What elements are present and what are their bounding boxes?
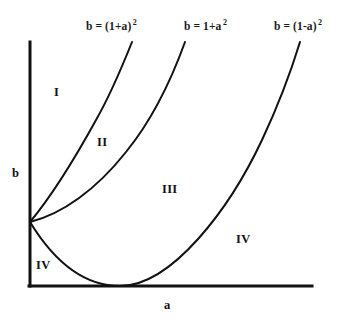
- region-label-iii: III: [162, 182, 178, 197]
- region-label-iv-left: IV: [36, 258, 51, 273]
- curve-label-text: b = (1-a): [274, 20, 317, 32]
- x-axis-label: a: [164, 298, 170, 313]
- stability-chart-figure: b = (1+a)2 b = 1+a2 b = (1-a)2 I II III …: [0, 0, 357, 323]
- curve-label-one-plus-a-sq: b = 1+a2: [184, 18, 227, 32]
- curve-label-one-plus-a-squared: b = (1+a)2: [86, 18, 137, 32]
- curve-label-exponent: 2: [318, 18, 322, 27]
- region-label-iv-right: IV: [236, 232, 251, 247]
- curve-label-exponent: 2: [133, 18, 137, 27]
- region-label-ii: II: [97, 135, 107, 150]
- region-label-i: I: [54, 85, 59, 100]
- curve-label-exponent: 2: [223, 18, 227, 27]
- curve-label-one-minus-a-squared: b = (1-a)2: [274, 18, 322, 32]
- curve-label-text: b = (1+a): [86, 20, 131, 32]
- curve-label-text: b = 1+a: [184, 20, 221, 32]
- curve-b-equals-one-plus-a-squared: [30, 42, 132, 222]
- y-axis-label: b: [12, 166, 19, 181]
- plot-canvas: [0, 0, 357, 323]
